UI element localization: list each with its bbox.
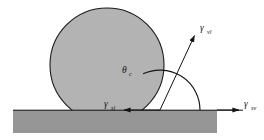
gamma-sv-label-group: γ sv [244,99,256,111]
gamma-sv-symbol: γ [244,99,248,109]
gamma-sl-symbol: γ [104,99,108,109]
gamma-lv-subscript: vl [207,28,212,35]
gamma-lv-vector [160,36,195,111]
gamma-lv-label-group: γ vl [200,23,212,35]
diagram-canvas: γ vl γ sl γ sv θ c [0,0,264,140]
gamma-lv-symbol: γ [200,23,204,33]
theta-symbol: θ [122,65,127,75]
gamma-sv-subscript: sv [251,104,256,111]
contact-angle-diagram: γ vl γ sl γ sv θ c [0,0,264,140]
theta-subscript: c [129,70,132,77]
solid-substrate [13,110,217,133]
gamma-sl-subscript: sl [111,104,115,111]
